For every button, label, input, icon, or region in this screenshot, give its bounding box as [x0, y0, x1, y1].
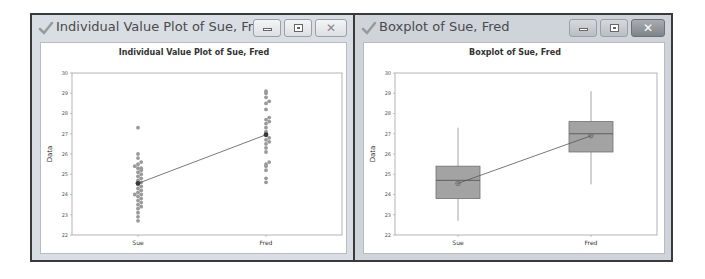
data-point [264, 176, 268, 180]
data-point [136, 152, 140, 156]
data-point [139, 197, 143, 201]
data-point [264, 168, 268, 172]
y-tick-label: 30 [62, 70, 68, 76]
x-tick-label: Fred [585, 239, 598, 246]
y-tick-label: 29 [62, 90, 68, 96]
data-point [139, 172, 143, 176]
chart-area: Individual Value Plot of Sue, Fred222324… [40, 42, 347, 254]
y-tick-label: 24 [62, 191, 68, 197]
data-point [139, 176, 143, 180]
data-point [264, 118, 268, 122]
y-tick-label: 28 [62, 110, 68, 116]
individual-value-plot-window[interactable]: Individual Value Plot of Sue, Fred ✕ Ind… [30, 13, 354, 262]
data-point [267, 136, 271, 140]
data-point [264, 95, 268, 99]
data-point [267, 120, 271, 124]
close-icon: ✕ [316, 20, 346, 36]
data-point [136, 156, 140, 160]
checkmark-icon [361, 20, 377, 36]
y-tick-label: 24 [385, 191, 391, 197]
data-point [139, 205, 143, 209]
data-point [136, 203, 140, 207]
minimize-icon [579, 28, 588, 31]
mean-marker [136, 181, 141, 186]
data-point [136, 215, 140, 219]
mean-connect-line [458, 136, 591, 184]
close-button[interactable]: ✕ [631, 19, 665, 37]
data-point [264, 122, 268, 126]
data-point [264, 138, 268, 142]
data-point [133, 164, 137, 168]
y-tick-label: 28 [385, 110, 391, 116]
y-tick-label: 29 [385, 90, 391, 96]
plot-frame [395, 73, 657, 235]
boxplot-window[interactable]: Boxplot of Sue, Fred ✕ Boxplot of Sue, F… [353, 13, 673, 262]
y-tick-label: 23 [62, 212, 68, 218]
data-point [139, 166, 143, 170]
y-tick-label: 25 [62, 171, 68, 177]
data-point [264, 150, 268, 154]
data-point [136, 162, 140, 166]
data-point [264, 146, 268, 150]
data-point [136, 207, 140, 211]
data-point [136, 174, 140, 178]
close-button[interactable]: ✕ [315, 19, 347, 37]
data-point [136, 195, 140, 199]
data-point [136, 187, 140, 191]
data-point [139, 160, 143, 164]
data-point [139, 193, 143, 197]
data-point [136, 170, 140, 174]
minimize-button[interactable] [253, 19, 281, 37]
window-title: Individual Value Plot of Sue, Fred [56, 19, 269, 34]
data-point [136, 211, 140, 215]
title-bar[interactable]: Boxplot of Sue, Fred ✕ [355, 15, 671, 42]
data-point [267, 99, 271, 103]
y-tick-label: 30 [385, 70, 391, 76]
close-icon: ✕ [632, 20, 664, 36]
y-tick-label: 27 [62, 131, 68, 137]
data-point [136, 126, 140, 130]
y-tick-label: 26 [62, 151, 68, 157]
mean-marker [264, 132, 269, 137]
x-tick-label: Fred [260, 239, 273, 246]
chart-title: Boxplot of Sue, Fred [469, 48, 561, 57]
y-tick-label: 22 [385, 232, 391, 238]
maximize-button[interactable] [284, 19, 312, 37]
y-axis-label: Data [46, 146, 54, 163]
x-tick-label: Sue [132, 239, 144, 246]
window-title: Boxplot of Sue, Fred [379, 19, 509, 34]
data-point [264, 108, 268, 112]
data-point [267, 140, 271, 144]
data-point [264, 162, 268, 166]
maximize-icon [294, 24, 303, 32]
data-point [136, 219, 140, 223]
y-axis-label: Data [369, 146, 377, 163]
plot-frame [72, 73, 342, 235]
data-point [136, 199, 140, 203]
data-point [139, 185, 143, 189]
maximize-icon [610, 24, 619, 32]
maximize-button[interactable] [600, 19, 628, 37]
data-point [264, 180, 268, 184]
minimize-button[interactable] [569, 19, 597, 37]
y-tick-label: 22 [62, 232, 68, 238]
y-tick-label: 26 [385, 151, 391, 157]
data-point [264, 142, 268, 146]
title-bar[interactable]: Individual Value Plot of Sue, Fred ✕ [32, 15, 353, 42]
data-point [264, 101, 268, 105]
mean-connect-line [138, 135, 266, 184]
data-point [264, 126, 268, 130]
individual-value-plot: Individual Value Plot of Sue, Fred222324… [41, 43, 347, 257]
y-tick-label: 23 [385, 212, 391, 218]
y-tick-label: 25 [385, 171, 391, 177]
data-point [267, 160, 271, 164]
y-tick-label: 27 [385, 131, 391, 137]
data-point [136, 191, 140, 195]
data-point [267, 116, 271, 120]
boxplot: Boxplot of Sue, Fred222324252627282930Da… [364, 43, 666, 257]
x-tick-label: Sue [452, 239, 464, 246]
checkmark-icon [38, 20, 54, 36]
chart-area: Boxplot of Sue, Fred222324252627282930Da… [363, 42, 665, 254]
minimize-icon [263, 28, 272, 31]
data-point [133, 193, 137, 197]
